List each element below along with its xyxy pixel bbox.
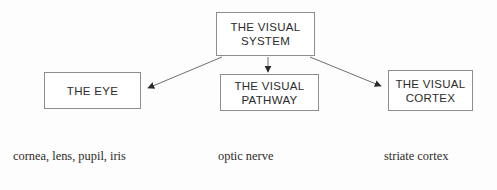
node-the-visual-pathway[interactable]: THE VISUAL PATHWAY	[220, 74, 319, 111]
node-the-visual-cortex[interactable]: THE VISUAL CORTEX	[388, 70, 473, 111]
node-the-eye[interactable]: THE EYE	[44, 72, 141, 109]
visual-system-diagram: THE VISUAL SYSTEM THE EYE THE VISUAL PAT…	[0, 0, 497, 190]
detail-list-eye: cornea, lens, pupil, iris retina photore…	[13, 119, 163, 190]
node-label: THE VISUAL PATHWAY	[230, 79, 308, 107]
edge-system-to-eye	[148, 57, 222, 88]
node-label: THE VISUAL CORTEX	[391, 77, 469, 105]
node-label: THE VISUAL SYSTEM	[226, 20, 304, 48]
edge-system-to-cortex	[310, 57, 381, 86]
list-item: striate cortex	[384, 149, 470, 164]
detail-list-cortex: striate cortex parastriate cortex Hubel …	[384, 119, 470, 190]
node-label: THE EYE	[63, 84, 122, 98]
list-item: cornea, lens, pupil, iris	[13, 149, 163, 164]
node-the-visual-system[interactable]: THE VISUAL SYSTEM	[216, 12, 315, 56]
list-item: optic nerve	[218, 149, 331, 164]
detail-list-pathway: optic nerve optic chiasma lateral genicu…	[218, 119, 331, 190]
